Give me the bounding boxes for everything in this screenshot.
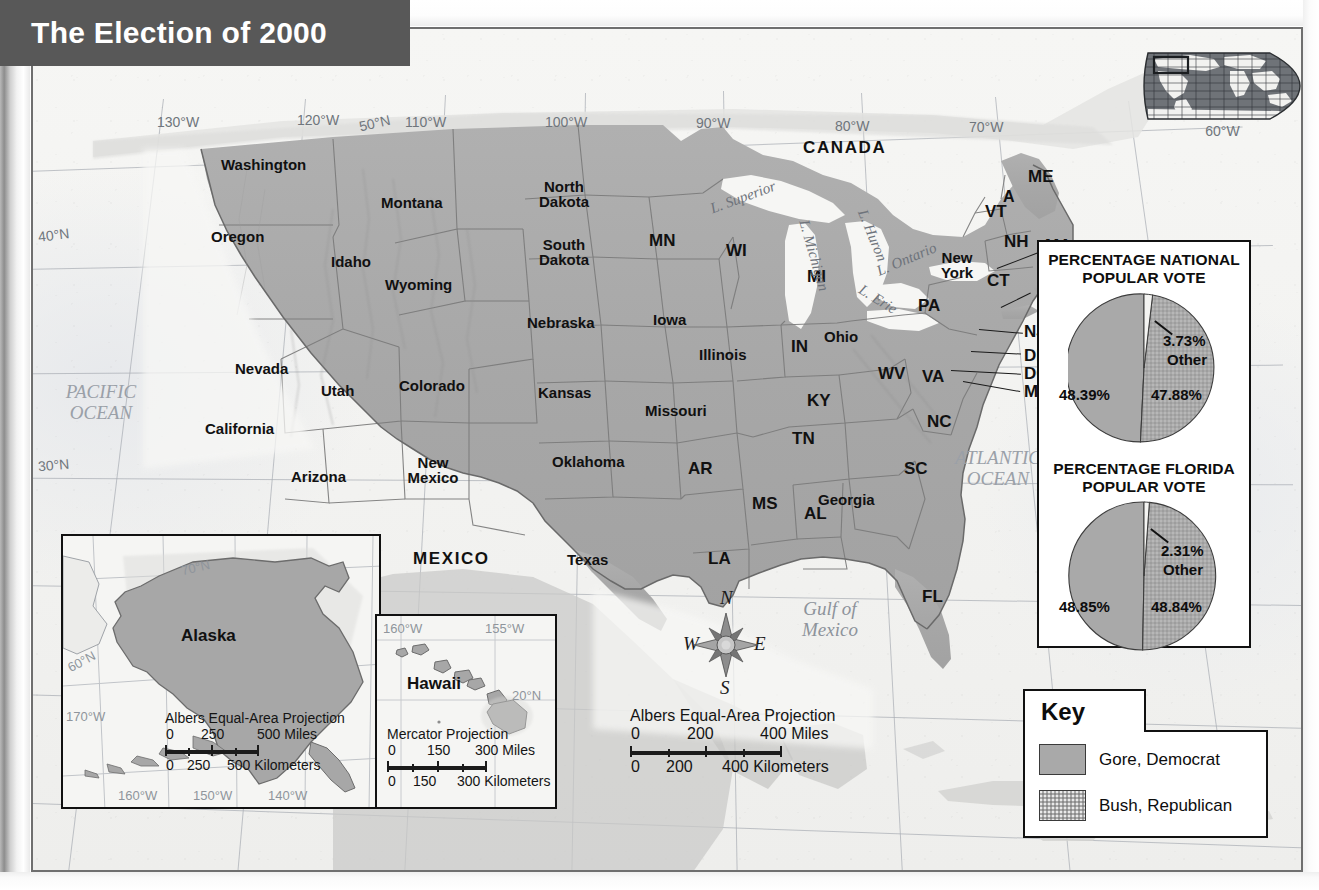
pie-label-gore-pct: 48.39% bbox=[1059, 386, 1110, 403]
key-corner-mask bbox=[1025, 728, 1144, 733]
scale-tick-label: 400 Miles bbox=[760, 725, 828, 743]
inset-coord-label: 170°W bbox=[66, 709, 105, 724]
national-pie-graphic[interactable] bbox=[1068, 292, 1220, 444]
state-label-california: California bbox=[205, 421, 274, 436]
alaska-inset: Alaska 70°N 60°N 170°W 160°W 150°W 140°W… bbox=[61, 534, 381, 809]
compass-rose: N E S W bbox=[681, 589, 771, 699]
longitude-label: 120°W bbox=[297, 112, 339, 128]
key-swatch-gore bbox=[1039, 744, 1086, 775]
state-label-new-mexico: NewMexico bbox=[395, 455, 471, 486]
inset-label-hawaii: Hawaii bbox=[407, 674, 461, 694]
scale-tick-label: 0 bbox=[166, 757, 174, 773]
key-label-gore: Gore, Democrat bbox=[1099, 750, 1220, 770]
scale-tick-label: 250 bbox=[201, 726, 224, 742]
scale-miles-labels: 0 250 500 Miles bbox=[165, 726, 370, 743]
state-label-south-dakota: SouthDakota bbox=[531, 237, 597, 268]
longitude-label: 70°W bbox=[969, 119, 1003, 135]
pie-label-other-pct: 3.73% bbox=[1163, 332, 1206, 349]
state-label-nevada: Nevada bbox=[235, 361, 288, 376]
longitude-label: 100°W bbox=[545, 114, 587, 130]
key-heading-box: Key bbox=[1023, 689, 1146, 732]
scale-projection-label: Mercator Projection bbox=[387, 726, 557, 742]
main-scale-bar: Albers Equal-Area Projection 0 200 400 M… bbox=[630, 707, 890, 777]
pie-slice-bush[interactable] bbox=[1141, 295, 1214, 442]
scale-miles-labels: 0 150 300 Miles bbox=[387, 742, 557, 759]
state-label-tn: TN bbox=[792, 430, 815, 447]
state-label-iowa: Iowa bbox=[653, 312, 686, 327]
scale-tick-label: 150 bbox=[427, 742, 450, 758]
scale-tick-label: 0 bbox=[631, 725, 640, 743]
pie-label-other-name: Other bbox=[1163, 561, 1203, 578]
florida-pie-chart[interactable]: 2.31% Other 48.85% 48.84% bbox=[1039, 498, 1249, 664]
state-label-ar: AR bbox=[688, 460, 713, 477]
state-label-colorado: Colorado bbox=[399, 378, 465, 393]
scale-tick-label: 300 Miles bbox=[475, 742, 535, 758]
scale-miles-labels: 0 200 400 Miles bbox=[630, 725, 890, 744]
key-heading: Key bbox=[1041, 698, 1085, 726]
book-spine-shadow bbox=[0, 0, 30, 890]
state-label-nc: NC bbox=[927, 413, 952, 430]
pie-label-gore-pct: 48.85% bbox=[1059, 598, 1110, 615]
scale-bar-graphic bbox=[387, 761, 557, 772]
national-pie-chart[interactable]: 3.73% Other 48.39% 47.88% bbox=[1039, 290, 1249, 456]
state-label-nebraska: Nebraska bbox=[527, 315, 595, 330]
panel-letter: A bbox=[1003, 188, 1015, 206]
scale-tick-label: 200 bbox=[666, 758, 693, 776]
scale-kilometers-labels: 0 150 300 Kilometers bbox=[387, 773, 557, 790]
map-page: 130°W 120°W 110°W 100°W 90°W 80°W 70°W 5… bbox=[0, 0, 1319, 890]
state-label-ct: CT bbox=[987, 272, 1010, 289]
scale-projection-label: Albers Equal-Area Projection bbox=[165, 710, 370, 726]
pie-label-other-name: Other bbox=[1167, 351, 1207, 368]
inset-coord-label: 150°W bbox=[193, 788, 232, 803]
state-label-north-dakota: NorthDakota bbox=[531, 179, 597, 210]
chart-title-line2: POPULAR VOTE bbox=[1039, 478, 1249, 496]
state-label-la: LA bbox=[708, 550, 731, 567]
state-label-wv: WV bbox=[878, 365, 905, 382]
gulf-label-line1: Gulf of bbox=[775, 599, 885, 620]
key-item-gore[interactable]: Gore, Democrat bbox=[1039, 744, 1220, 775]
scale-tick-label: 400 Kilometers bbox=[722, 758, 829, 776]
state-label-wi: WI bbox=[726, 242, 747, 259]
national-chart-title: PERCENTAGE NATIONAL POPULAR VOTE bbox=[1039, 251, 1249, 287]
scale-tick-label: 250 bbox=[187, 757, 210, 773]
pie-slice-gore[interactable] bbox=[1068, 294, 1144, 442]
pie-label-bush-pct: 47.88% bbox=[1151, 386, 1202, 403]
key-item-bush[interactable]: Bush, Republican bbox=[1039, 790, 1232, 821]
state-label-mn: MN bbox=[649, 232, 675, 249]
state-label-oregon: Oregon bbox=[211, 229, 264, 244]
state-label-va: VA bbox=[922, 368, 944, 385]
scale-tick-label: 200 bbox=[687, 725, 714, 743]
pie-slice-gore[interactable] bbox=[1069, 502, 1144, 650]
scale-tick-label: 0 bbox=[388, 742, 396, 758]
hawaii-scale-bar: Mercator Projection 0 150 300 Miles 0 1 bbox=[387, 726, 557, 790]
inset-coord-label: 160°W bbox=[383, 621, 422, 636]
state-label-texas: Texas bbox=[567, 552, 608, 567]
scale-kilometers-labels: 0 200 400 Kilometers bbox=[630, 758, 890, 777]
key-swatch-bush bbox=[1039, 790, 1086, 821]
state-label-ms: MS bbox=[752, 495, 778, 512]
page-title: The Election of 2000 bbox=[31, 16, 327, 50]
state-label-me: ME bbox=[1028, 168, 1054, 185]
state-label-oklahoma: Oklahoma bbox=[552, 454, 625, 469]
ocean-label-pacific: PACIFIC OCEAN bbox=[41, 381, 161, 424]
longitude-label: 80°W bbox=[835, 118, 869, 134]
map-plate: 130°W 120°W 110°W 100°W 90°W 80°W 70°W 5… bbox=[31, 27, 1303, 872]
page-edge-right bbox=[1303, 0, 1319, 890]
chart-title-line2: POPULAR VOTE bbox=[1039, 269, 1249, 287]
state-label-wyoming: Wyoming bbox=[385, 277, 452, 292]
inset-coord-label: 140°W bbox=[268, 788, 307, 803]
state-label-georgia: Georgia bbox=[818, 492, 875, 507]
scale-tick-label: 500 Miles bbox=[257, 726, 317, 742]
ocean-label-line2: OCEAN bbox=[41, 402, 161, 423]
state-label-idaho: Idaho bbox=[331, 254, 371, 269]
map-key: Key Gore, Democrat Bush, Republican bbox=[1023, 689, 1273, 841]
inset-coord-label: 20°N bbox=[512, 688, 541, 703]
ocean-label-line1: PACIFIC bbox=[41, 381, 161, 402]
state-label-washington: Washington bbox=[221, 157, 306, 172]
pie-label-bush-pct: 48.84% bbox=[1151, 598, 1202, 615]
scale-kilometers-labels: 0 250 500 Kilometers bbox=[165, 757, 370, 774]
state-label-fl: FL bbox=[922, 588, 943, 605]
scale-tick-label: 150 bbox=[413, 773, 436, 789]
scale-bar-graphic bbox=[630, 746, 890, 757]
scale-tick-label: 0 bbox=[388, 773, 396, 789]
